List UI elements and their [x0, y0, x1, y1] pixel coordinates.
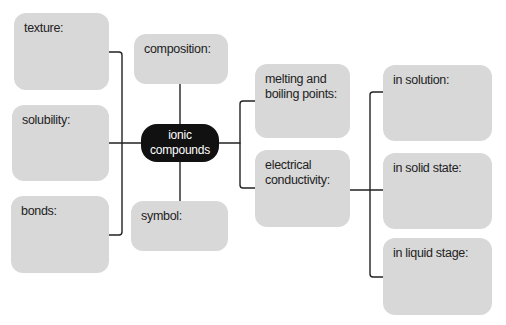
central-topic-label: ionic compounds — [150, 128, 210, 158]
right-bracket-line — [240, 101, 255, 188]
bonds-label: bonds: — [21, 204, 99, 219]
in-solution-label: in solution: — [393, 73, 482, 88]
electrical-conductivity-label: electrical conductivity: — [265, 158, 340, 188]
states-bracket-line — [370, 92, 383, 277]
symbol-box: symbol: — [131, 201, 228, 251]
texture-box: texture: — [14, 13, 109, 90]
in-liquid-stage-box: in liquid stage: — [383, 238, 492, 315]
composition-label: composition: — [144, 42, 218, 57]
composition-box: composition: — [134, 34, 228, 84]
central-topic: ionic compounds — [141, 124, 219, 162]
electrical-conductivity-box: electrical conductivity: — [255, 150, 350, 227]
in-solid-state-box: in solid state: — [383, 153, 492, 229]
concept-map: texture: solubility: bonds: composition:… — [0, 0, 506, 325]
melting-boiling-label: melting and boiling points: — [265, 72, 340, 102]
melting-boiling-box: melting and boiling points: — [255, 64, 350, 138]
texture-label: texture: — [24, 21, 99, 36]
in-solid-state-label: in solid state: — [393, 161, 482, 176]
bonds-box: bonds: — [11, 196, 109, 273]
solubility-label: solubility: — [22, 113, 99, 128]
in-solution-box: in solution: — [383, 65, 492, 141]
symbol-label: symbol: — [141, 209, 218, 224]
solubility-box: solubility: — [12, 105, 109, 181]
in-liquid-stage-label: in liquid stage: — [393, 246, 482, 261]
